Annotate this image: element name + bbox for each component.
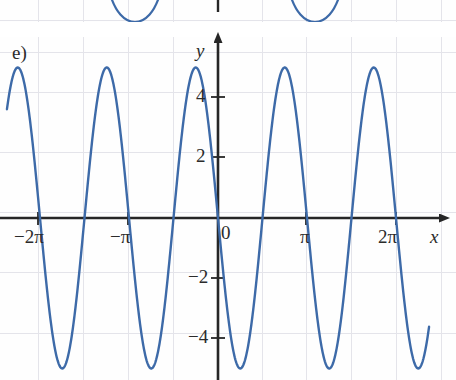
origin-label: 0	[221, 222, 231, 244]
y-tick-label-2: 2	[196, 145, 206, 167]
y-tick-label-neg2: −2	[188, 266, 208, 288]
figure-panel: e) −2π −π π 2π 4 2 −2 −4 0 y x	[0, 0, 456, 380]
part-label: e)	[12, 42, 27, 64]
x-tick-label-2pi: 2π	[378, 226, 397, 248]
x-axis-label: x	[430, 226, 438, 248]
coordinate-plot	[0, 0, 456, 380]
y-tick-label-neg4: −4	[188, 326, 208, 348]
x-tick-label-neg2pi: −2π	[14, 226, 44, 248]
x-tick-label-pi: π	[300, 226, 310, 248]
x-tick-label-negpi: −π	[110, 226, 130, 248]
y-tick-label-4: 4	[196, 85, 206, 107]
y-axis-label: y	[196, 40, 204, 62]
